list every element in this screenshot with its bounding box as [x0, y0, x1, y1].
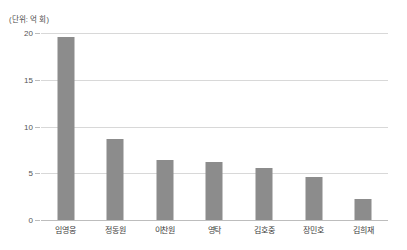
- y-tick-mark: [35, 220, 40, 221]
- bar[interactable]: [57, 37, 74, 220]
- bar-slot: [140, 33, 190, 220]
- x-tick-label: 이찬원: [155, 224, 176, 235]
- bar[interactable]: [206, 162, 223, 220]
- gridline: [41, 220, 388, 221]
- y-tick-label: 10: [3, 122, 33, 131]
- y-tick-mark: [35, 33, 40, 34]
- bar-slot: [190, 33, 240, 220]
- x-tick-label: 영탁: [208, 224, 222, 235]
- y-tick-mark: [35, 127, 40, 128]
- y-tick-label: 5: [3, 169, 33, 178]
- y-tick-label: 15: [3, 75, 33, 84]
- bar[interactable]: [256, 168, 273, 220]
- bar-slot: [338, 33, 388, 220]
- y-tick-mark: [35, 173, 40, 174]
- bar[interactable]: [156, 160, 173, 220]
- x-tick-label: 장민호: [303, 224, 324, 235]
- y-tick-label: 0: [3, 216, 33, 225]
- bar-slot: [41, 33, 91, 220]
- x-tick-label: 정동원: [105, 224, 126, 235]
- bar-slot: [289, 33, 339, 220]
- bar-slot: [239, 33, 289, 220]
- bar[interactable]: [305, 177, 322, 220]
- bar[interactable]: [107, 139, 124, 220]
- x-tick-label: 김희재: [353, 224, 374, 235]
- x-tick-label: 임영웅: [55, 224, 76, 235]
- bars-layer: [41, 33, 388, 220]
- bar[interactable]: [355, 199, 372, 221]
- y-tick-label: 20: [3, 29, 33, 38]
- plot-area: [41, 33, 388, 220]
- bar-chart: (단위: 억 회) 05101520 임영웅정동원이찬원영탁김호중장민호김희재: [0, 0, 407, 250]
- x-tick-label: 김호중: [254, 224, 275, 235]
- bar-slot: [91, 33, 141, 220]
- y-tick-mark: [35, 80, 40, 81]
- unit-caption: (단위: 억 회): [9, 13, 49, 24]
